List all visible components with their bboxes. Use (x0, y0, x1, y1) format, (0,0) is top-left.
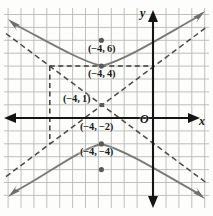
point-label-vertex-upper: (−4, 4) (88, 68, 115, 79)
graph-canvas (0, 0, 213, 216)
grid-lines (4, 8, 209, 208)
point-label-center: (−4, 1) (63, 93, 90, 104)
point-center (99, 103, 103, 107)
point-label-focus-upper: (−4, 6) (88, 43, 115, 54)
origin-label: O (140, 112, 149, 127)
coordinate-plane-figure: (−4, 6) (−4, 4) (−4, 1) (−4, −2) (−4, −4… (0, 0, 213, 216)
point-label-focus-lower: (−4, −4) (80, 146, 113, 157)
y-axis-label: y (140, 6, 145, 21)
point-focus-lower (99, 167, 104, 172)
x-axis-label: x (199, 114, 205, 129)
point-label-vertex-lower: (−4, −2) (80, 121, 113, 132)
